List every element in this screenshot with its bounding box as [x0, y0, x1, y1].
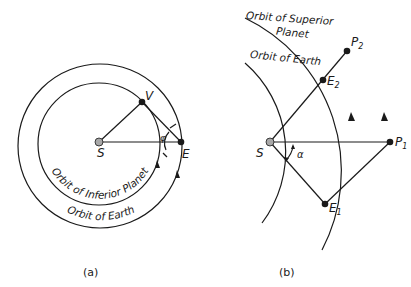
e1-label: E1	[329, 201, 342, 217]
p2-label: P2	[351, 35, 363, 51]
sun-to-v-line	[99, 102, 142, 142]
v-label: V	[145, 89, 154, 103]
orbit-inferior-planet-label: Orbit of Inferior Planet	[50, 165, 151, 201]
e1-dot	[322, 201, 329, 208]
e2-dot	[320, 77, 327, 84]
earth-orbit-arrow-icon	[348, 112, 355, 121]
orbit-earth-label-a: Orbit of Earth	[66, 203, 136, 222]
sun-label: S	[97, 146, 105, 160]
orbit-superior-planet-label-line2: Planet	[275, 25, 310, 40]
angle-alpha-label: α	[297, 149, 304, 160]
e-dot	[178, 139, 185, 146]
sun-label-b: S	[256, 146, 264, 160]
phi-tick-upper	[170, 124, 176, 128]
p1-label: P1	[395, 135, 407, 151]
phi-tick-lower	[163, 153, 167, 157]
orbit-earth-label-b: Orbit of Earth	[250, 48, 322, 67]
orbit-diagram: φ S V E Orbit of Inferior Planet Orbit o…	[0, 0, 411, 287]
superior-orbit-arrow-icon	[381, 112, 388, 121]
orbit-superior-planet-label-line1: Orbit of Superior	[246, 9, 335, 27]
sun-dot	[95, 138, 103, 146]
orbit-of-earth-arc	[245, 63, 286, 223]
p1-dot	[387, 139, 394, 146]
panel-b: α S P2 E2 P1 E1 Orbit of Superior Planet…	[245, 9, 407, 279]
sun-dot-b	[266, 138, 274, 146]
e2-label: E2	[327, 74, 340, 90]
e1-to-p1-line	[325, 142, 390, 204]
caption-a: (a)	[83, 266, 98, 279]
e-label: E	[182, 147, 190, 161]
caption-b: (b)	[279, 266, 295, 279]
alpha-arrow-up-icon	[291, 144, 295, 149]
angle-phi-label: φ	[160, 133, 166, 143]
panel-a: φ S V E Orbit of Inferior Planet Orbit o…	[18, 64, 190, 279]
p2-dot	[344, 48, 351, 55]
